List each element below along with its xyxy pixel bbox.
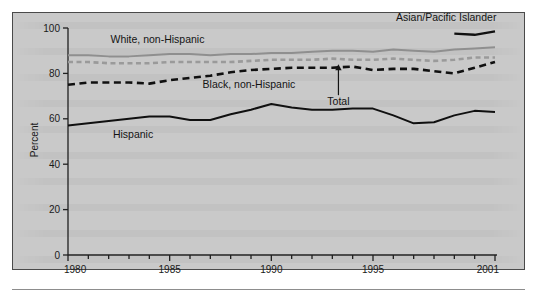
y-axis-tick-label: 20 <box>49 204 61 215</box>
y-axis-tick-label: 100 <box>43 23 60 34</box>
series-annotation-asian-pacific-islander: Asian/Pacific Islander <box>396 11 497 23</box>
series-line-hispanic <box>68 104 495 126</box>
series-annotation-hispanic: Hispanic <box>113 128 153 140</box>
series-annotation-black-non-hispanic: Black, non-Hispanic <box>203 78 296 90</box>
y-axis-tick-label: 60 <box>49 113 61 124</box>
y-axis-tick-label: 40 <box>49 159 61 170</box>
figure-root: 020406080100Percent19801985199019952001A… <box>0 0 539 299</box>
x-axis-tick-label: 2001 <box>477 264 500 275</box>
x-axis-tick-label: 1995 <box>362 264 385 275</box>
series-annotation-white-non-hispanic: White, non-Hispanic <box>110 33 204 45</box>
footer-divider <box>12 289 525 290</box>
x-axis-tick-label: 1980 <box>64 264 87 275</box>
y-axis-tick-label: 0 <box>54 250 60 261</box>
series-line-white-non-hispanic <box>68 47 495 56</box>
series-line-total <box>68 58 495 64</box>
line-chart: 020406080100Percent19801985199019952001A… <box>0 0 539 299</box>
series-line-asian-pacific-islander <box>454 31 495 34</box>
y-axis-title: Percent <box>29 123 40 158</box>
x-axis-tick-label: 1985 <box>159 264 182 275</box>
y-axis-tick-label: 80 <box>49 68 61 79</box>
x-axis-tick-label: 1990 <box>260 264 283 275</box>
series-annotation-total: Total <box>327 95 349 107</box>
